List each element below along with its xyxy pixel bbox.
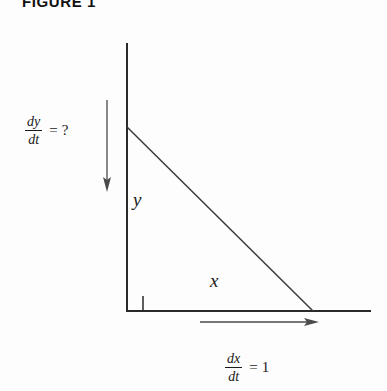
dx-dt-expression: dx dt = 1 xyxy=(224,351,269,384)
dx-dt-arrow xyxy=(200,318,319,326)
dy-value: ? xyxy=(62,122,69,139)
dy-denominator: dt xyxy=(25,130,42,147)
dy-dt-expression: dy dt = ? xyxy=(24,114,68,147)
figure-container: FIGURE 1 y x dy dt = ? xyxy=(0,0,387,391)
related-rates-diagram xyxy=(0,0,387,391)
dx-value: 1 xyxy=(262,359,270,376)
dx-numerator: dx xyxy=(224,351,243,367)
right-angle-marker xyxy=(128,296,143,311)
dx-dt-fraction: dx dt xyxy=(224,351,243,384)
leg-label-y: y xyxy=(133,189,141,211)
dx-denominator: dt xyxy=(225,367,242,384)
hypotenuse-line xyxy=(127,127,313,311)
leg-label-x: x xyxy=(210,270,218,292)
dy-dt-arrow xyxy=(103,100,111,192)
dy-numerator: dy xyxy=(24,114,43,130)
dy-equals-sign: = xyxy=(49,122,57,139)
dy-dt-fraction: dy dt xyxy=(24,114,43,147)
dx-equals-sign: = xyxy=(249,359,257,376)
